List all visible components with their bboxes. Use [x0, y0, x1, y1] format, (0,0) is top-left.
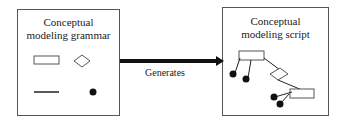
arrow-head-icon	[216, 56, 224, 66]
script-entity-2	[290, 89, 314, 98]
script-relationship	[270, 68, 288, 80]
diagram-shapes	[0, 0, 342, 121]
diamond-icon	[74, 55, 90, 67]
script-entity-1	[239, 51, 264, 60]
rectangle-icon	[34, 56, 59, 64]
dot-icon	[90, 89, 97, 96]
